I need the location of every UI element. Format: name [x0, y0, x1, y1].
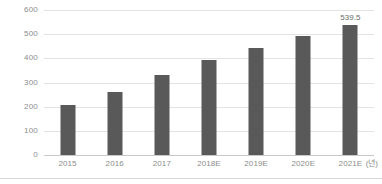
x-tick-label-2016: 2016	[91, 160, 138, 168]
bar-value-label-2021E: 539.5	[340, 14, 361, 22]
bar-2021E	[343, 25, 358, 155]
bar-slot	[280, 10, 327, 155]
y-tick-label-200: 200	[4, 103, 38, 111]
y-tick-label-300: 300	[4, 79, 38, 87]
bar-slot	[233, 10, 280, 155]
bar-2015	[60, 105, 75, 155]
unit-label: (년)	[366, 160, 378, 168]
bar-slot	[185, 10, 232, 155]
bar-slot: 539.5	[327, 10, 374, 155]
chart-bottom-border	[0, 178, 382, 179]
x-tick-label-2019E: 2019E	[233, 160, 280, 168]
bar-2019E	[249, 48, 264, 155]
axis-line-zero	[44, 155, 374, 156]
y-tick-label-400: 400	[4, 54, 38, 62]
bar-series: 539.5	[44, 10, 374, 155]
bar-2016	[107, 92, 122, 155]
x-tick-label-2017: 2017	[138, 160, 185, 168]
bar-slot	[91, 10, 138, 155]
bar-chart: 0100200300400500600 539.5 20152016201720…	[0, 0, 382, 184]
x-tick-label-2018E: 2018E	[185, 160, 232, 168]
bar-slot	[138, 10, 185, 155]
bar-2020E	[296, 36, 311, 155]
bar-2018E	[201, 60, 216, 155]
y-tick-label-500: 500	[4, 30, 38, 38]
x-tick-label-2020E: 2020E	[280, 160, 327, 168]
y-tick-label-0: 0	[4, 151, 38, 159]
bar-2017	[154, 75, 169, 155]
y-tick-label-100: 100	[4, 127, 38, 135]
x-axis-tick-labels: 2015201620172018E2019E2020E2021E	[44, 160, 374, 174]
x-tick-label-2015: 2015	[44, 160, 91, 168]
y-tick-label-600: 600	[4, 6, 38, 14]
bar-slot	[44, 10, 91, 155]
